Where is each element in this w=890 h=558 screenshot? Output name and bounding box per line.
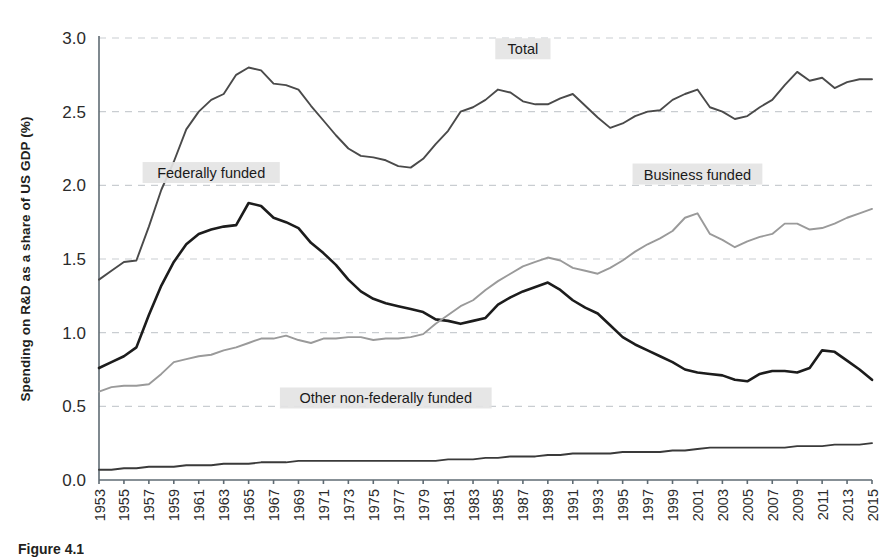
x-tick-label: 2007 <box>765 489 781 521</box>
rd-spending-line-chart: 0.00.51.01.52.02.53.0Spending on R&D as … <box>0 0 890 558</box>
x-tick-label: 2009 <box>790 489 806 521</box>
y-tick-label: 3.0 <box>62 29 86 48</box>
x-tick-label: 1961 <box>191 489 207 521</box>
x-tick-label: 1981 <box>441 489 457 521</box>
x-tick-label: 1995 <box>615 489 631 521</box>
x-tick-label: 1997 <box>640 489 656 521</box>
axes <box>99 36 872 480</box>
annotation-label: Business funded <box>644 167 751 183</box>
x-tick-label: 2003 <box>715 489 731 521</box>
figure-caption: Figure 4.1 <box>18 541 84 558</box>
x-tick-label: 1959 <box>166 489 182 521</box>
figure-container: 0.00.51.01.52.02.53.0Spending on R&D as … <box>0 0 890 558</box>
x-tick-labels: 1953195519571959196119631965196719691971… <box>92 480 881 521</box>
x-tick-label: 1953 <box>92 489 108 521</box>
x-tick-label: 2013 <box>840 489 856 521</box>
y-tick-label: 2.5 <box>62 103 86 122</box>
x-tick-label: 2015 <box>865 489 881 521</box>
y-axis-title: Spending on R&D as a share of US GDP (%) <box>18 116 33 401</box>
x-tick-label: 1991 <box>565 489 581 521</box>
series-line-federally-funded <box>99 203 872 381</box>
x-tick-label: 1971 <box>316 489 332 521</box>
x-tick-label: 1965 <box>241 489 257 521</box>
x-tick-label: 1977 <box>391 489 407 521</box>
x-tick-label: 2005 <box>740 489 756 521</box>
annotation-label: Other non-federally funded <box>300 390 473 406</box>
x-tick-label: 1985 <box>490 489 506 521</box>
annotation-label: Federally funded <box>157 165 265 181</box>
y-tick-label: 1.0 <box>62 324 86 343</box>
x-tick-label: 1979 <box>416 489 432 521</box>
x-tick-label: 1963 <box>216 489 232 521</box>
x-tick-label: 1989 <box>540 489 556 521</box>
annotation-label: Total <box>508 41 539 57</box>
series-group <box>99 67 872 469</box>
x-tick-label: 2011 <box>815 489 831 520</box>
x-tick-label: 1987 <box>515 489 531 521</box>
x-tick-label: 1999 <box>665 489 681 521</box>
gridlines <box>99 38 872 406</box>
y-tick-labels: 0.00.51.01.52.02.53.0 <box>62 29 86 490</box>
series-annotations: TotalFederally fundedBusiness fundedOthe… <box>143 38 763 408</box>
y-tick-label: 0.5 <box>62 397 86 416</box>
x-tick-label: 1957 <box>141 489 157 521</box>
x-tick-label: 1973 <box>341 489 357 521</box>
x-tick-label: 1969 <box>291 489 307 521</box>
y-tick-label: 2.0 <box>62 176 86 195</box>
y-tick-label: 1.5 <box>62 250 86 269</box>
series-line-business-funded <box>99 209 872 392</box>
x-tick-label: 1955 <box>116 489 132 521</box>
x-tick-label: 1967 <box>266 489 282 521</box>
x-tick-label: 1975 <box>366 489 382 521</box>
x-tick-label: 1993 <box>590 489 606 521</box>
x-tick-label: 1983 <box>466 489 482 521</box>
x-tick-label: 2001 <box>690 489 706 521</box>
y-tick-label: 0.0 <box>62 471 86 490</box>
series-line-other-non-federally-funded <box>99 443 872 470</box>
